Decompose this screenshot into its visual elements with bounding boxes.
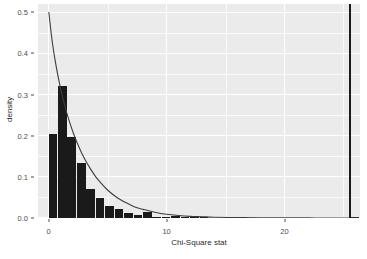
x-axis-tick-label: 10 — [162, 227, 170, 236]
chart-container: density 0.00.10.20.30.40.5 01020 Chi-Squ… — [0, 0, 367, 259]
y-axis-tick-label: 0.4 — [18, 49, 28, 58]
x-axis-tick-label: 20 — [280, 227, 288, 236]
density-curve-layer — [38, 4, 360, 218]
x-axis-tick-label: 0 — [47, 227, 51, 236]
density-curve — [49, 12, 359, 218]
y-axis-tick-mark — [31, 94, 34, 95]
x-axis-tick-mark — [284, 219, 285, 222]
y-axis-tick-label: 0.2 — [18, 131, 28, 140]
y-axis-tick-group: 0.00.10.20.30.40.5 — [14, 0, 34, 230]
y-axis-tick-mark — [31, 12, 34, 13]
x-axis-tick-mark — [166, 219, 167, 222]
x-axis-tick-mark — [48, 219, 49, 222]
x-axis-title: Chi-Square stat — [38, 238, 360, 247]
y-axis-tick-mark — [31, 176, 34, 177]
y-axis-tick-mark — [31, 135, 34, 136]
y-axis-tick-mark — [31, 53, 34, 54]
y-axis-tick-label: 0.3 — [18, 90, 28, 99]
y-axis-tick-label: 0.1 — [18, 172, 28, 181]
y-axis-tick-label: 0.5 — [18, 8, 28, 17]
critical-value-reference-line — [349, 4, 351, 218]
plot-panel — [38, 4, 360, 218]
